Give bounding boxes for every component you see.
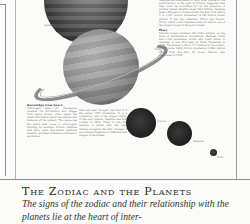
continued-text: than was ever thought, and that it is th…	[79, 109, 127, 137]
knowledge-text: Astrologers take our intelligence receiv…	[27, 107, 77, 138]
uranus-illustration	[126, 108, 156, 138]
neptune-label: Neptune	[193, 140, 204, 143]
pluto-illustration	[210, 149, 217, 156]
pluto-text: Percival Lowell assumed that Pluto exist…	[159, 32, 225, 57]
neptune-pluto-column: Neptune was discovered in 1846, after st…	[159, 0, 225, 57]
section-divider	[0, 179, 250, 180]
saturn-label: Saturn	[77, 91, 85, 94]
continued-column: than was ever thought, and that it is th…	[79, 109, 127, 137]
jupiter-label: Jupiter	[44, 24, 52, 27]
page-rule-left	[5, 4, 6, 176]
section-subtitle: The signs of the zodiac and their relati…	[22, 197, 248, 223]
uranus-label: Uranus	[157, 120, 166, 123]
neptune-text: Neptune was discovered in 1846, after st…	[159, 0, 225, 27]
pluto-label: Pluto	[217, 156, 223, 159]
neptune-illustration	[167, 121, 192, 146]
knowledge-column: Knowledge from Space Astrologers take ou…	[27, 104, 77, 138]
